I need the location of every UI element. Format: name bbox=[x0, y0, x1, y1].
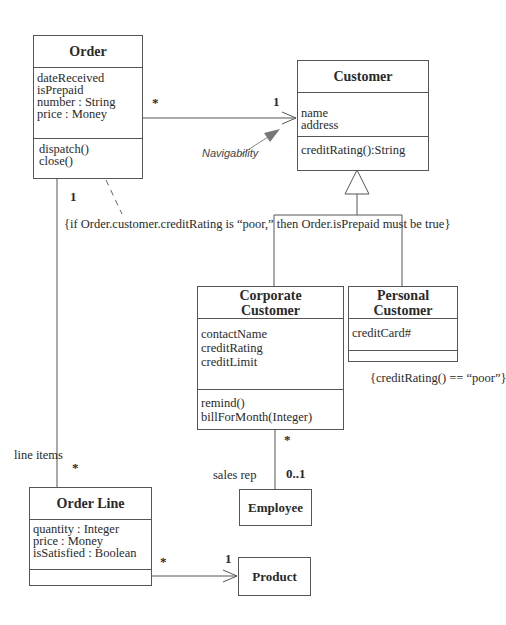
multiplicity-orderline-product-orderline: * bbox=[160, 555, 167, 568]
attribute: isSatisfied : Boolean bbox=[33, 547, 148, 559]
role-sales-rep: sales rep bbox=[213, 469, 256, 482]
role-line: line bbox=[14, 448, 33, 462]
attribute: price : Money bbox=[37, 108, 139, 120]
operation: remind() bbox=[201, 396, 340, 410]
class-order-line[interactable]: Order Line quantity : Integer price : Mo… bbox=[29, 487, 152, 586]
class-customer-name: Customer bbox=[298, 61, 428, 93]
constraint-line: {creditRating() bbox=[370, 371, 446, 385]
class-product[interactable]: Product bbox=[238, 557, 311, 596]
operation: close() bbox=[39, 155, 139, 167]
class-corporate-customer-name: Corporate Customer bbox=[198, 287, 343, 319]
multiplicity-order-customer-customer: 1 bbox=[273, 95, 280, 108]
name-line: Personal bbox=[377, 288, 429, 303]
multiplicity-order-orderline-orderline: * bbox=[72, 461, 79, 474]
constraint-line: “poor,” then Order.isPrepaid bbox=[237, 217, 380, 231]
multiplicity-order-orderline-order: 1 bbox=[70, 190, 77, 203]
class-personal-customer-attributes: creditCard# bbox=[349, 319, 457, 351]
multiplicity-corporate-employee-employee: 0..1 bbox=[286, 467, 306, 480]
multiplicity-corporate-employee-corporate: * bbox=[284, 433, 291, 446]
class-customer-operations: creditRating():String bbox=[298, 137, 428, 156]
operation: billForMonth(Integer) bbox=[201, 410, 340, 424]
operation: creditRating():String bbox=[301, 144, 425, 156]
navigability-label: Navigability bbox=[202, 147, 258, 159]
attribute: creditRating bbox=[201, 341, 340, 355]
class-order-attributes: dateReceived isPrepaid number : String p… bbox=[34, 68, 142, 139]
role-line: items bbox=[36, 448, 63, 462]
attribute: address bbox=[301, 119, 425, 131]
class-order-name: Order bbox=[34, 36, 142, 68]
name-line: Corporate bbox=[239, 288, 301, 303]
attribute: creditLimit bbox=[201, 355, 340, 369]
attribute: contactName bbox=[201, 327, 340, 341]
name-line: Customer bbox=[241, 303, 300, 318]
multiplicity-orderline-product-product: 1 bbox=[225, 552, 232, 565]
class-customer-attributes: name address bbox=[298, 93, 428, 137]
attribute: creditCard# bbox=[352, 327, 454, 339]
class-order[interactable]: Order dateReceived isPrepaid number : St… bbox=[33, 35, 143, 179]
constraint-line: == “poor”} bbox=[449, 371, 506, 385]
class-order-line-name: Order Line bbox=[30, 488, 151, 520]
class-personal-customer-operations bbox=[349, 351, 457, 355]
order-constraint-note: {if Order.customer.creditRating is “poor… bbox=[64, 217, 450, 231]
class-order-line-operations bbox=[30, 570, 151, 574]
personal-constraint-note: {creditRating() == “poor”} bbox=[370, 372, 506, 385]
class-corporate-customer[interactable]: Corporate Customer contactName creditRat… bbox=[197, 286, 344, 430]
class-personal-customer[interactable]: Personal Customer creditCard# bbox=[348, 286, 458, 362]
name-line: Customer bbox=[373, 303, 432, 318]
multiplicity-order-customer-order: * bbox=[152, 96, 159, 109]
class-corporate-customer-attributes: contactName creditRating creditLimit bbox=[198, 319, 343, 390]
class-order-operations: dispatch() close() bbox=[34, 139, 142, 167]
class-personal-customer-name: Personal Customer bbox=[349, 287, 457, 319]
role-line-items: line items bbox=[14, 449, 63, 462]
class-employee[interactable]: Employee bbox=[239, 489, 312, 526]
class-corporate-customer-operations: remind() billForMonth(Integer) bbox=[198, 390, 343, 424]
constraint-line: must be true} bbox=[383, 217, 451, 231]
class-customer[interactable]: Customer name address creditRating():Str… bbox=[297, 60, 429, 171]
class-order-line-attributes: quantity : Integer price : Money isSatis… bbox=[30, 520, 151, 570]
constraint-line: {if Order.customer.creditRating is bbox=[64, 217, 234, 231]
